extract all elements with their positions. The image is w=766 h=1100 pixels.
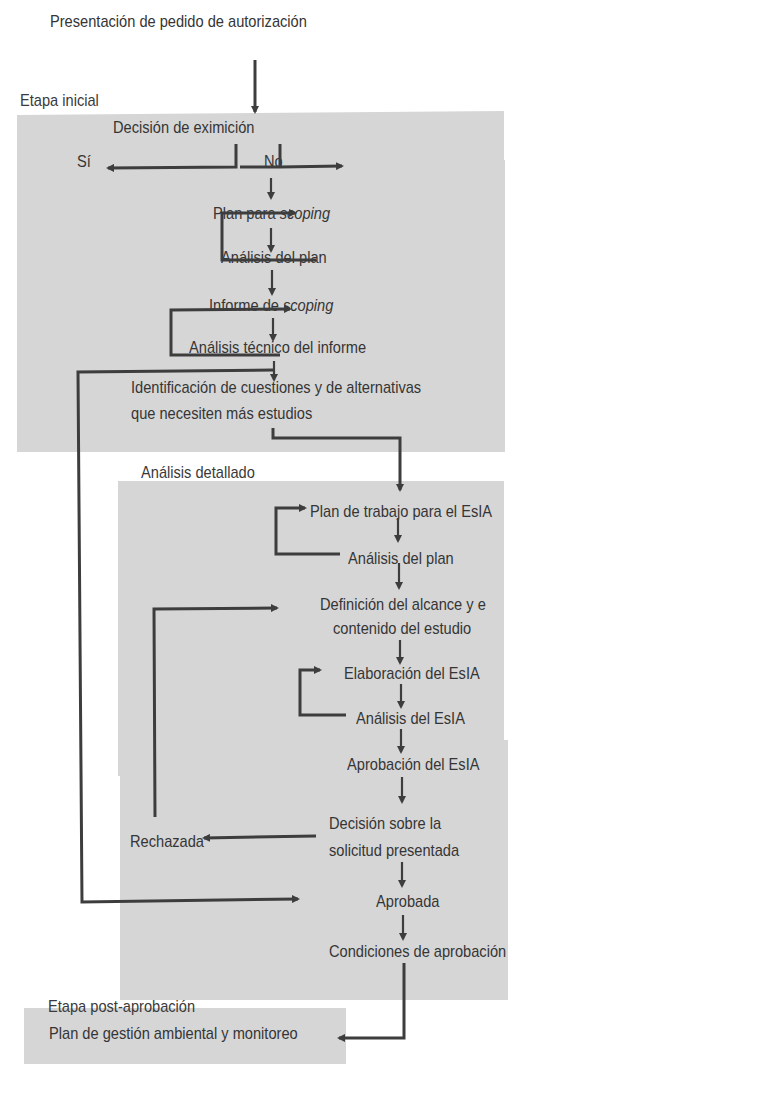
arrow-conditions-to-management-plan [339,963,404,1038]
arrow-identification-to-work-plan [273,428,400,490]
arrow-decision-to-rejected [204,836,316,838]
loop-eia-work-plan [276,508,340,554]
arrow-decision-to-no [240,144,342,167]
arrow-decision-to-yes [108,144,236,168]
loop-scoping-plan [222,213,316,260]
loop-eia-elaboration [300,670,346,715]
loop-rejected-to-scope [154,608,277,817]
bypass-to-approved [78,370,298,902]
flow-connectors [0,0,766,1100]
